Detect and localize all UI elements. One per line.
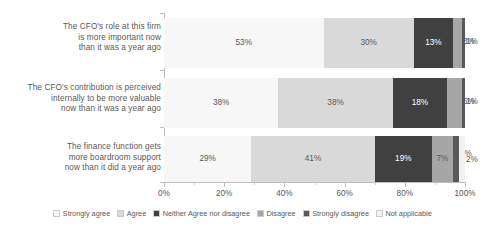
bar-segment: 29% (164, 136, 251, 183)
x-axis-label: 20% (216, 189, 232, 198)
bar-segment: 3% (453, 18, 462, 68)
legend-swatch-icon (153, 210, 160, 217)
x-axis-label: 100% (455, 189, 476, 198)
category-label-2: The finance function gets more boardroom… (0, 142, 161, 174)
data-label: 38% (213, 99, 229, 107)
legend-swatch-icon (257, 210, 264, 217)
category-label-line: The finance function gets (0, 142, 161, 153)
legend-label: Strongly agree (63, 209, 110, 218)
bar-segment: 13% (414, 18, 453, 68)
category-label-line: now than it did a year ago (0, 163, 161, 174)
x-axis-tick (224, 183, 225, 187)
legend-item[interactable]: Agree (117, 209, 146, 218)
legend-swatch-icon (303, 210, 310, 217)
data-label: 38% (327, 99, 343, 107)
data-label: 41% (305, 155, 321, 163)
bar-segment: 41% (251, 136, 374, 183)
x-axis-minor-tick (254, 183, 255, 185)
category-label-0: The CFO's role at this firm is more impo… (0, 22, 161, 54)
category-label-line: The CFO's role at this firm (0, 22, 161, 33)
bar-segment: 2% (459, 136, 465, 183)
bar-segment: 1% (462, 18, 465, 68)
data-label: 30% (360, 39, 376, 47)
legend-item[interactable]: Disagree (257, 209, 296, 218)
bar-row: 53%30%13%3%1% (164, 18, 465, 68)
x-axis-label: 80% (397, 189, 413, 198)
category-label-1: The CFO's contribution is perceived inte… (0, 83, 161, 115)
category-label-line: more boardroom support (0, 153, 161, 164)
bar-segment: 5% (447, 78, 462, 128)
x-axis-minor-tick (315, 183, 316, 185)
data-label: 1% (466, 38, 478, 46)
category-label-line: internally to be more valuable (0, 94, 161, 105)
bar-row: 29%41%19%7%2%2% (164, 136, 465, 183)
category-label-line: is more important now (0, 33, 161, 44)
data-label: 2% (466, 156, 478, 164)
data-label: 7% (436, 155, 448, 163)
bar-segment: 53% (164, 18, 324, 68)
category-label-line: The CFO's contribution is perceived (0, 83, 161, 94)
x-axis-tick (284, 183, 285, 187)
legend-swatch-icon (53, 210, 60, 217)
x-axis-tick (164, 183, 165, 187)
category-label-line: now than it was a year ago (0, 104, 161, 115)
bar-row: 38%38%18%5%1% (164, 78, 465, 128)
bar-segment: 30% (324, 18, 414, 68)
x-axis-minor-tick (194, 183, 195, 185)
chart-legend: Strongly agreeAgreeNeither Agree nor dis… (0, 209, 485, 218)
data-label: 19% (395, 155, 411, 163)
legend-label: Not applicable (385, 209, 431, 218)
data-label: 1% (466, 98, 478, 106)
x-axis-tick (405, 183, 406, 187)
legend-item[interactable]: Strongly disagree (303, 209, 369, 218)
legend-label: Strongly disagree (312, 209, 369, 218)
legend-item[interactable]: Strongly agree (53, 209, 110, 218)
data-label: 13% (425, 39, 441, 47)
x-axis-tick (345, 183, 346, 187)
legend-label: Neither Agree nor disagree (163, 209, 250, 218)
data-label: 53% (236, 39, 252, 47)
bar-segment: 1% (462, 78, 465, 128)
x-axis-label: 40% (276, 189, 292, 198)
category-label-line: than it was a year ago (0, 43, 161, 54)
data-label: 18% (412, 99, 428, 107)
legend-swatch-icon (376, 210, 383, 217)
bar-segment: 18% (393, 78, 447, 128)
data-label: 29% (199, 155, 215, 163)
x-axis-minor-tick (375, 183, 376, 185)
x-axis-label: 60% (336, 189, 352, 198)
bar-segment: 38% (164, 78, 278, 128)
x-axis-label: 0% (158, 189, 170, 198)
x-axis-tick (465, 183, 466, 187)
plot-area: 53%30%13%3%1%38%38%18%5%1%29%41%19%7%2%2… (164, 13, 465, 182)
stacked-bar-chart: The CFO's role at this firm is more impo… (0, 0, 485, 228)
legend-item[interactable]: Neither Agree nor disagree (153, 209, 250, 218)
bar-segment: 38% (278, 78, 392, 128)
bar-segment: 7% (432, 136, 453, 183)
x-axis-minor-tick (435, 183, 436, 185)
legend-label: Disagree (266, 209, 295, 218)
legend-item[interactable]: Not applicable (376, 209, 432, 218)
legend-swatch-icon (117, 210, 124, 217)
legend-label: Agree (127, 209, 146, 218)
bar-segment: 19% (375, 136, 432, 183)
